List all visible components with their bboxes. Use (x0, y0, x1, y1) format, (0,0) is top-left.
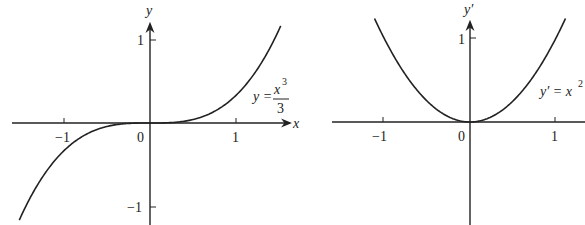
right-eq-lhs: y′ = x (538, 84, 573, 99)
left-eq-numerator: x (273, 82, 281, 97)
right-tick-label-x-0: 0 (458, 129, 465, 144)
right-tick-label-x-1: 1 (551, 129, 558, 144)
left-tick-label-x-neg1: −1 (55, 130, 70, 145)
left-plot: y x −1 0 1 1 −1 y = x 3 3 (12, 3, 300, 225)
left-tick-label-y-neg1: −1 (127, 200, 142, 215)
chart-canvas: y x −1 0 1 1 −1 y = x 3 3 y′ −1 0 1 1 y′… (0, 0, 585, 225)
right-tick-label-x-neg1: −1 (372, 129, 387, 144)
left-eq-denominator: 3 (277, 101, 284, 116)
right-plot: y′ −1 0 1 1 y′ = x 2 (332, 2, 585, 225)
left-equation-label: y = x 3 3 (251, 76, 289, 116)
left-tick-label-y-1: 1 (137, 33, 144, 48)
left-eq-lhs: y = (251, 89, 272, 104)
left-tick-label-x-0: 0 (137, 130, 144, 145)
right-equation-label: y′ = x 2 (538, 78, 583, 99)
left-x-axis-label: x (292, 116, 300, 131)
right-tick-label-y-1: 1 (458, 32, 465, 47)
right-y-axis-label: y′ (462, 2, 474, 17)
left-tick-label-x-1: 1 (232, 130, 239, 145)
left-eq-exponent: 3 (282, 76, 287, 87)
right-eq-exponent: 2 (578, 78, 583, 89)
left-y-axis-label: y (144, 3, 153, 18)
